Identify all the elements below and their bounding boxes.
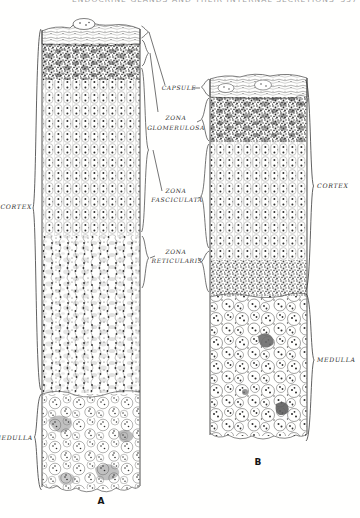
zone-labels: CAPSULE ZONA GLOMERULOSA ZONA FASCICULAT… [147,84,205,264]
label-zona-fasciculata-line1: ZONA [164,187,186,194]
label-medulla-panel-b: MEDULLA [316,356,356,363]
glomerulosa-brace-panel-b [202,98,210,141]
label-panel-a: A [98,496,105,506]
panel-a-medulla [43,394,140,489]
panel-a-capsule-nodule [73,19,95,30]
medulla-brace-panel-a [35,394,42,490]
panel-b-capsule-vessel-1 [218,84,234,93]
panel-a-micrograph [40,19,142,503]
cortex-brace-panel-a [33,29,41,390]
label-capsule: CAPSULE [162,84,197,91]
label-zona-reticularis-line2: RETICULARIS [151,257,203,264]
label-zona-glomerulosa-line2: GLOMERULOSA [147,124,205,131]
reticularis-brace-panel-b [202,251,210,292]
book-page: ENDOCRINE GLANDS AND THEIR INTERNAL SECR… [0,0,360,518]
panel-b-zona-fasciculata [211,142,307,260]
label-cortex-panel-a: CORTEX [0,203,32,210]
panel-b-zona-reticularis [211,260,307,296]
panel-b-medulla [211,296,307,436]
label-zona-fasciculata-line2: FASCICULATA [150,196,202,203]
leader-lines [149,32,201,260]
capsule-brace-panel-a [142,26,149,38]
adrenal-gland-histology-figure: CAPSULE ZONA GLOMERULOSA ZONA FASCICULAT… [0,0,360,518]
reticularis-brace-panel-a [142,236,149,288]
label-zona-glomerulosa-line1: ZONA [164,114,186,121]
label-medulla-panel-a: MEDULLA [0,434,33,441]
glomerulosa-brace-panel-a [142,40,149,66]
panel-b-micrograph [208,74,309,455]
label-cortex-panel-b: CORTEX [317,182,349,189]
panel-b-capsule-vessel-2 [255,80,272,90]
fasciculata-leader-line [153,150,162,191]
glomerulosa-brace-dash [197,120,201,122]
capsule-leader-line [149,32,165,85]
label-zona-reticularis-line1: ZONA [164,248,186,255]
panel-a-zona-fasciculata [43,80,140,236]
glomerulosa-leader-line [150,53,158,112]
capsule-brace-panel-b [202,79,210,96]
label-panel-b: B [255,457,262,467]
fasciculata-brace-panel-a [142,68,149,232]
